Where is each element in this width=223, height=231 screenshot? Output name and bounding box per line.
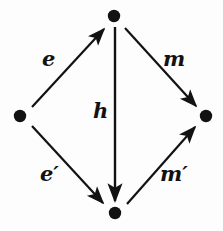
- diagram-nodes: [14, 10, 212, 219]
- commutative-diagram: e m h e′ m′: [0, 0, 223, 231]
- right-vertex: [200, 110, 212, 122]
- edge-label-h: h: [93, 100, 108, 121]
- edge-label-m: m: [163, 48, 185, 69]
- diagram-canvas: [0, 0, 223, 231]
- top-vertex: [108, 10, 120, 22]
- edge-label-e: e: [42, 48, 55, 69]
- edge-label-e-prime: e′: [40, 163, 59, 184]
- left-vertex: [14, 110, 26, 122]
- bottom-vertex: [109, 207, 121, 219]
- edge-m-line: [125, 28, 196, 106]
- edge-label-m-prime: m′: [160, 163, 188, 184]
